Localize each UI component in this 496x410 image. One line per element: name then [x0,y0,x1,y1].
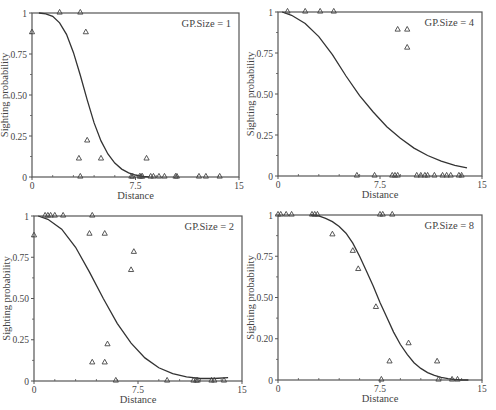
triangle-marker-icon [102,231,107,236]
triangle-marker-icon [90,359,95,364]
x-tick-label: 15 [477,384,487,394]
y-tick-label: 0 [24,377,29,387]
triangle-marker-icon [87,231,92,236]
y-tick-label: 0.75 [256,49,273,59]
panel-title: GP.Size = 2 [185,221,234,232]
fitted-curve [38,216,228,379]
triangle-marker-icon [83,29,88,34]
x-tick-label: 15 [477,180,487,190]
triangle-marker-icon [373,304,378,309]
y-tick-label: 1 [268,211,273,221]
y-tick-label: 0.75 [12,253,29,263]
fitted-curve [39,13,149,177]
y-axis-label: Sighting probability [1,256,12,341]
panel-title: GP.Size = 8 [425,220,474,231]
triangle-marker-icon [406,340,411,345]
y-tick-label: 0 [268,172,273,182]
x-axis-label: Distance [120,394,157,405]
fitted-curve [311,215,469,380]
x-tick-label: 15 [237,385,247,395]
triangle-marker-icon [102,359,107,364]
chart-panel-2: 00.250.500.75107.515DistanceSighting pro… [245,8,487,201]
panel-title: GP.Size = 1 [182,18,231,29]
y-tick-label: 0 [268,376,273,386]
y-axis-label: Sighting probability [245,51,256,136]
x-tick-label: 15 [234,181,244,191]
x-tick-label: 0 [276,180,281,190]
x-tick-label: 0 [276,384,281,394]
y-tick-label: 0.20 [256,334,273,344]
triangle-marker-icon [395,26,400,31]
plot-frame [278,12,482,176]
triangle-marker-icon [356,266,361,271]
y-tick-label: 0.50 [12,294,29,304]
triangle-marker-icon [131,249,136,254]
y-tick-label: 0.50 [256,90,273,100]
triangle-marker-icon [85,137,90,142]
triangle-marker-icon [350,248,355,253]
y-tick-label: 0.50 [10,91,27,101]
triangle-marker-icon [330,231,335,236]
plot-frame [278,215,482,380]
triangle-marker-icon [128,267,133,272]
y-tick-label: 0.75 [256,252,273,262]
y-tick-label: 1 [268,8,273,18]
y-tick-label: 0.25 [10,132,27,142]
triangle-marker-icon [387,358,392,363]
triangle-marker-icon [405,44,410,49]
y-tick-label: 1 [24,212,29,222]
triangle-marker-icon [98,155,103,160]
chart-panel-3: 00.250.500.75107.515DistanceSighting pro… [1,212,247,406]
x-axis-label: Distance [362,393,399,404]
x-axis-label: Distance [117,190,154,201]
y-tick-label: 1 [22,9,27,19]
y-tick-label: 0 [22,173,27,183]
y-tick-label: 0.75 [10,50,27,60]
y-tick-label: 0.25 [256,131,273,141]
x-axis-label: Distance [362,189,399,200]
y-axis-label: Sighting probability [0,52,10,137]
chart-panel-4: 00.200.500.75107.515DistanceSighting pro… [245,211,487,405]
triangle-marker-icon [405,26,410,31]
figure: 00.250.500.75107.515DistanceSighting pro… [0,0,496,410]
chart-panel-1: 00.250.500.75107.515DistanceSighting pro… [0,9,244,202]
y-tick-label: 0.50 [256,293,273,303]
panel-title: GP.Size = 4 [425,17,475,28]
triangle-marker-icon [76,155,81,160]
y-tick-label: 0.25 [12,335,29,345]
triangle-marker-icon [435,358,440,363]
x-tick-label: 0 [32,385,37,395]
y-axis-label: Sighting probability [245,255,256,340]
plot-frame [32,13,239,177]
x-tick-label: 0 [30,181,35,191]
fitted-curve [282,12,467,168]
plot-frame [34,216,242,381]
triangle-marker-icon [144,155,149,160]
triangle-marker-icon [105,341,110,346]
